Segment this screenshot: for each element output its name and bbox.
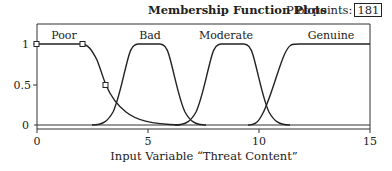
y-tick-0: 0 [22, 119, 29, 132]
x-tick-5: 5 [145, 135, 152, 148]
x-tick-15: 15 [363, 135, 377, 148]
x-tick-0: 0 [34, 135, 41, 148]
label-bad: Bad [139, 29, 161, 42]
curve-genuine[interactable] [248, 44, 370, 125]
y-tick-1: 1 [22, 38, 29, 51]
label-poor: Poor [51, 29, 77, 42]
x-axis-label: Input Variable “Threat Content” [0, 149, 392, 163]
marker-handle-2[interactable] [80, 42, 85, 47]
curve-bad[interactable] [92, 44, 206, 125]
curve-moderate[interactable] [175, 44, 290, 125]
marker-handle-half[interactable] [103, 83, 108, 88]
y-tick-05: 0.5 [14, 79, 32, 92]
membership-plot: 1 0.5 0 0 5 10 15 Poor Bad Moderate Genu… [0, 0, 392, 171]
marker-handle-0[interactable] [34, 42, 39, 47]
label-genuine: Genuine [308, 29, 355, 42]
x-tick-10: 10 [252, 135, 266, 148]
label-moderate: Moderate [199, 29, 253, 42]
